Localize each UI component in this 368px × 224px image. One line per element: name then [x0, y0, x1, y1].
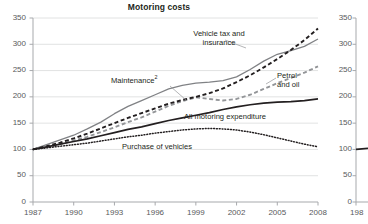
right-chart-y-tick-label: 150 [328, 118, 352, 127]
x-tick-label: 1990 [57, 208, 91, 217]
gridlines [33, 18, 318, 176]
right-chart-y-tick-label: 300 [328, 39, 352, 48]
y-tick-label: 50 [2, 170, 26, 179]
right-chart-y-tick-label: 250 [328, 65, 352, 74]
right-chart-partial [353, 18, 368, 206]
series-label-all-motoring: All motoring expenditure [184, 112, 290, 121]
right-chart-y-tick-label: 350 [328, 13, 352, 22]
right-chart-y-tick-label: 50 [328, 170, 352, 179]
x-tick-label: 1996 [138, 208, 172, 217]
x-tick-label: 2008 [301, 208, 335, 217]
x-tick-label: 2005 [260, 208, 294, 217]
y-tick-label: 350 [2, 13, 26, 22]
series-label-maintenance-text: Maintenance [111, 76, 154, 85]
x-tick-label: 1999 [179, 208, 213, 217]
series-label-maintenance: Maintenance2 [111, 76, 173, 85]
axis-lines [33, 18, 318, 202]
y-tick-label: 250 [2, 65, 26, 74]
y-tick-label: 300 [2, 39, 26, 48]
series-label-purchase: Purchase of vehicles [122, 142, 222, 151]
series-paths [33, 29, 318, 150]
x-tick-label: 2002 [220, 208, 254, 217]
right-chart-y-tick-label: 200 [328, 91, 352, 100]
x-tick-label: 1987 [16, 208, 50, 217]
y-tick-label: 150 [2, 118, 26, 127]
right-chart-y-tick-label: 100 [328, 144, 352, 153]
right-chart-y-tick-label: 0 [328, 197, 352, 206]
series-label-vehicle-tax: Vehicle tax and insurance [183, 29, 255, 47]
chart-figure: Motoring costs 050100150200250300350 198… [0, 0, 368, 224]
y-tick-label: 100 [2, 144, 26, 153]
footnote-marker: 2 [154, 74, 157, 80]
right-chart-x-tick-label: 198 [350, 208, 368, 217]
x-tick-label: 1993 [97, 208, 131, 217]
y-tick-label: 0 [2, 197, 26, 206]
series-label-petrol: Petrol and oil [277, 71, 321, 89]
y-tick-label: 200 [2, 91, 26, 100]
